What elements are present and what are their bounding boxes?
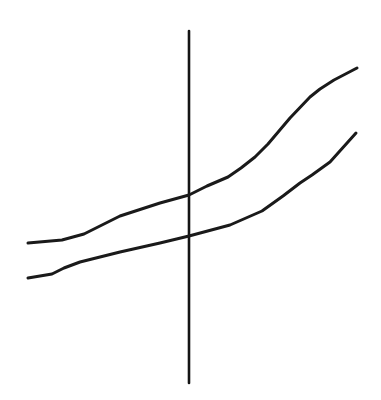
figure-background (0, 0, 381, 400)
line-chart-svg (0, 0, 381, 400)
figure-canvas (0, 0, 381, 400)
